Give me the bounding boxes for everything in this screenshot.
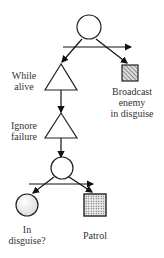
selector-circle-2 [51, 157, 73, 179]
in-disguise-condition-node [16, 194, 38, 216]
label-line: in disguise [104, 108, 160, 119]
label-line: alive [8, 81, 40, 92]
broadcast-label: Broadcast enemy in disguise [104, 86, 160, 119]
patrol-label: Patrol [75, 230, 115, 241]
label-line: disguise? [4, 235, 50, 246]
edges-root [62, 39, 131, 63]
broadcast-action-node [122, 65, 138, 81]
label-line: enemy [104, 97, 160, 108]
ignore-failure-decorator-node [45, 113, 77, 138]
while-alive-decorator-node [45, 64, 77, 90]
label-line: In [4, 224, 50, 235]
root-selector-circle [77, 15, 101, 39]
label-line: Broadcast [104, 86, 160, 97]
while-alive-label: While alive [8, 70, 40, 92]
label-line: While [8, 70, 40, 81]
patrol-action-node [84, 194, 106, 216]
label-line: failure [5, 131, 43, 142]
in-disguise-label: In disguise? [4, 224, 50, 246]
ignore-failure-label: Ignore failure [5, 120, 43, 142]
label-line: Ignore [5, 120, 43, 131]
